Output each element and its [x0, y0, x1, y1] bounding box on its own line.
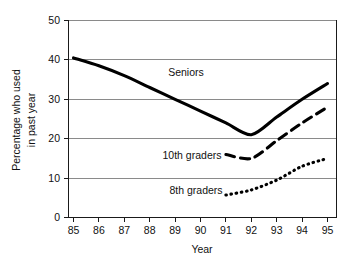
y-tick-label-40: 40 — [48, 53, 60, 65]
x-tick-label-91: 91 — [220, 224, 232, 236]
y-tick-labels: 50 40 30 20 10 0 — [48, 14, 60, 223]
x-tick-label-85: 85 — [68, 224, 80, 236]
x-tick-label-87: 87 — [118, 224, 130, 236]
x-tick-label-94: 94 — [296, 224, 308, 236]
y-axis-title-line1: Percentage who used — [10, 69, 22, 171]
series-group — [74, 58, 328, 195]
x-tick-label-88: 88 — [144, 224, 156, 236]
y-axis-title-line2: in past year — [25, 92, 37, 147]
x-tick-label-89: 89 — [169, 224, 181, 236]
line-chart: 50 40 30 20 10 0 85 86 87 88 89 — [0, 0, 361, 262]
y-tick-label-30: 30 — [48, 93, 60, 105]
x-tick-label-92: 92 — [245, 224, 257, 236]
x-tick-labels: 85 86 87 88 89 90 91 92 93 94 95 — [68, 224, 334, 236]
series-label-10th-graders: 10th graders — [163, 149, 222, 161]
series-annotations: Seniors 10th graders 8th graders — [163, 66, 223, 196]
series-label-8th-graders: 8th graders — [169, 184, 222, 196]
y-tick-label-0: 0 — [54, 211, 60, 223]
y-tick-label-10: 10 — [48, 172, 60, 184]
x-tick-marks — [74, 218, 328, 222]
chart-canvas: 50 40 30 20 10 0 85 86 87 88 89 — [0, 0, 361, 262]
y-tick-label-50: 50 — [48, 14, 60, 26]
x-tick-label-93: 93 — [271, 224, 283, 236]
y-tick-label-20: 20 — [48, 132, 60, 144]
x-axis-title: Year — [191, 243, 213, 255]
series-label-seniors: Seniors — [168, 66, 204, 78]
series-line-8th-graders — [226, 158, 328, 195]
x-tick-label-95: 95 — [322, 224, 334, 236]
x-tick-label-86: 86 — [93, 224, 105, 236]
x-tick-label-90: 90 — [195, 224, 207, 236]
y-tick-marks — [64, 21, 68, 218]
